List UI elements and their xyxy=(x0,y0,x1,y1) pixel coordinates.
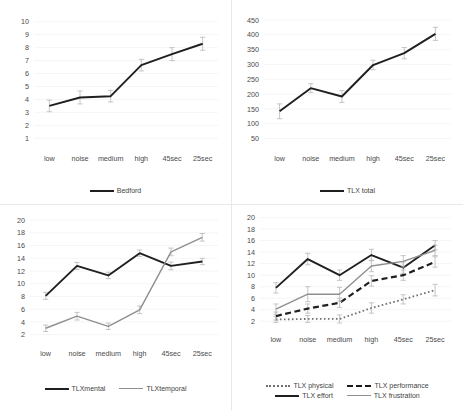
svg-text:25sec: 25sec xyxy=(425,335,445,344)
svg-text:low: low xyxy=(44,154,56,163)
svg-text:medium: medium xyxy=(329,154,355,163)
plot-area-tlx-mental-temporal: 2468101214161820lownoisemediumhigh45sec2… xyxy=(0,205,231,410)
svg-text:2: 2 xyxy=(251,317,255,326)
figure-grid: 12345678910lownoisemediumhigh45sec25sec … xyxy=(0,0,463,410)
svg-text:45sec: 45sec xyxy=(395,154,415,163)
legend-swatch-icon xyxy=(347,385,371,387)
svg-text:4: 4 xyxy=(25,95,29,104)
plot-area-tlx-subscales: 2468101214161820lownoisemediumhigh45sec2… xyxy=(232,205,463,410)
legend-label: TLX effort xyxy=(302,392,333,399)
legend-swatch-icon xyxy=(45,388,69,390)
plot-area-bedford: 12345678910lownoisemediumhigh45sec25sec xyxy=(0,0,231,204)
svg-text:20: 20 xyxy=(17,216,25,225)
legend-bedford: Bedford xyxy=(0,187,231,194)
svg-text:12: 12 xyxy=(17,267,25,276)
plot-area-tlx-total: 50100150200250300350400450lownoisemedium… xyxy=(232,0,463,204)
svg-text:25sec: 25sec xyxy=(426,154,446,163)
svg-text:low: low xyxy=(274,154,286,163)
svg-text:200: 200 xyxy=(247,90,259,99)
chart-svg-tlx-total: 50100150200250300350400450lownoisemedium… xyxy=(232,0,463,180)
svg-text:noise: noise xyxy=(71,154,88,163)
svg-text:7: 7 xyxy=(25,56,29,65)
chart-panel-tlx-total: 50100150200250300350400450lownoisemedium… xyxy=(232,0,463,205)
svg-text:9: 9 xyxy=(25,30,29,39)
chart-panel-tlx-mental-temporal: 2468101214161820lownoisemediumhigh45sec2… xyxy=(0,205,232,410)
chart-panel-tlx-subscales: 2468101214161820lownoisemediumhigh45sec2… xyxy=(232,205,463,410)
legend-swatch-icon xyxy=(275,395,299,397)
legend-label: TLXtemporal xyxy=(146,385,186,392)
svg-text:low: low xyxy=(40,349,52,358)
svg-text:250: 250 xyxy=(247,75,259,84)
svg-text:16: 16 xyxy=(247,236,255,245)
legend-swatch-icon xyxy=(347,395,371,396)
legend-label: TLX physical xyxy=(293,382,333,389)
legend-tlx-subscales: TLX physicalTLX performanceTLX effortTLX… xyxy=(232,382,463,402)
svg-text:45sec: 45sec xyxy=(161,349,181,358)
svg-text:8: 8 xyxy=(251,282,255,291)
svg-text:medium: medium xyxy=(98,154,124,163)
svg-text:45sec: 45sec xyxy=(394,335,414,344)
legend-item[interactable]: Bedford xyxy=(90,187,142,194)
legend-label: TLX performance xyxy=(374,382,428,389)
legend-tlx-total: TLX total xyxy=(232,187,463,194)
svg-text:20: 20 xyxy=(247,213,255,222)
svg-text:4: 4 xyxy=(21,318,25,327)
svg-text:4: 4 xyxy=(251,305,255,314)
svg-text:150: 150 xyxy=(247,105,259,114)
svg-text:25sec: 25sec xyxy=(193,154,213,163)
legend-label: TLX frustration xyxy=(374,392,420,399)
svg-text:low: low xyxy=(271,335,283,344)
svg-text:3: 3 xyxy=(25,108,29,117)
chart-svg-tlx-subscales: 2468101214161820lownoisemediumhigh45sec2… xyxy=(232,205,463,357)
svg-text:450: 450 xyxy=(247,16,259,25)
svg-text:400: 400 xyxy=(247,30,259,39)
svg-text:14: 14 xyxy=(17,254,25,263)
legend-label: TLXmental xyxy=(72,385,106,392)
svg-text:high: high xyxy=(135,154,149,163)
svg-text:50: 50 xyxy=(251,134,259,143)
svg-text:12: 12 xyxy=(247,259,255,268)
legend-item[interactable]: TLX effort xyxy=(275,392,333,399)
svg-text:6: 6 xyxy=(251,294,255,303)
svg-text:2: 2 xyxy=(25,121,29,130)
svg-text:10: 10 xyxy=(21,17,29,26)
svg-text:14: 14 xyxy=(247,248,255,257)
svg-text:medium: medium xyxy=(327,335,353,344)
legend-label: Bedford xyxy=(117,187,142,194)
svg-text:100: 100 xyxy=(247,119,259,128)
svg-text:10: 10 xyxy=(17,279,25,288)
legend-item[interactable]: TLXmental xyxy=(45,385,106,392)
legend-item[interactable]: TLX frustration xyxy=(347,392,420,399)
svg-text:5: 5 xyxy=(25,82,29,91)
svg-text:18: 18 xyxy=(247,225,255,234)
svg-text:25sec: 25sec xyxy=(193,349,213,358)
svg-text:300: 300 xyxy=(247,60,259,69)
legend-label: TLX total xyxy=(347,187,375,194)
legend-tlx-mental-temporal: TLXmentalTLXtemporal xyxy=(0,385,231,392)
svg-text:high: high xyxy=(366,154,380,163)
svg-text:noise: noise xyxy=(299,335,316,344)
legend-item[interactable]: TLX total xyxy=(320,187,375,194)
svg-text:high: high xyxy=(365,335,379,344)
legend-item[interactable]: TLX physical xyxy=(266,382,333,389)
svg-text:45sec: 45sec xyxy=(162,154,182,163)
legend-swatch-icon xyxy=(266,385,290,387)
legend-item[interactable]: TLX performance xyxy=(347,382,428,389)
legend-item[interactable]: TLXtemporal xyxy=(119,385,186,392)
svg-text:10: 10 xyxy=(247,271,255,280)
svg-text:medium: medium xyxy=(96,349,122,358)
chart-svg-tlx-mental-temporal: 2468101214161820lownoisemediumhigh45sec2… xyxy=(0,205,232,375)
svg-text:8: 8 xyxy=(21,292,25,301)
svg-text:1: 1 xyxy=(25,134,29,143)
chart-panel-bedford: 12345678910lownoisemediumhigh45sec25sec … xyxy=(0,0,232,205)
legend-swatch-icon xyxy=(90,190,114,192)
svg-text:2: 2 xyxy=(21,330,25,339)
svg-text:6: 6 xyxy=(25,69,29,78)
chart-svg-bedford: 12345678910lownoisemediumhigh45sec25sec xyxy=(0,0,232,180)
legend-swatch-icon xyxy=(119,388,143,389)
svg-text:noise: noise xyxy=(68,349,85,358)
svg-text:8: 8 xyxy=(25,43,29,52)
legend-swatch-icon xyxy=(320,190,344,192)
svg-text:noise: noise xyxy=(302,154,319,163)
svg-text:6: 6 xyxy=(21,305,25,314)
